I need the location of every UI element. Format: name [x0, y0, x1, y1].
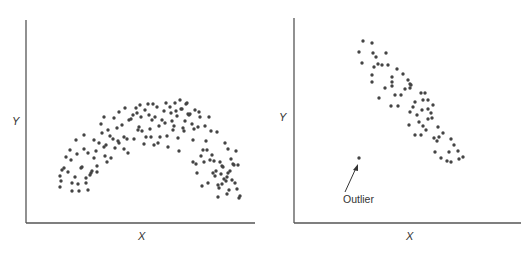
data-point	[103, 154, 106, 157]
data-point	[84, 181, 87, 184]
chart-canvas-left: Y X	[0, 0, 265, 255]
data-point	[457, 157, 460, 160]
data-point	[66, 170, 69, 173]
scatter-chart-curvilinear: Y X	[0, 0, 265, 255]
y-axis-label-left: Y	[12, 115, 20, 127]
data-points-right	[357, 39, 464, 163]
data-point	[371, 51, 374, 54]
data-point	[220, 182, 223, 185]
data-point	[170, 119, 173, 122]
data-point	[389, 104, 392, 107]
data-point	[219, 172, 222, 175]
data-point	[421, 124, 424, 127]
data-point	[426, 107, 429, 110]
data-point	[134, 106, 137, 109]
data-point	[197, 110, 200, 113]
data-point	[139, 115, 142, 118]
data-point	[171, 128, 174, 131]
data-point	[447, 150, 450, 153]
data-point	[142, 142, 145, 145]
data-point	[370, 73, 373, 76]
data-point	[215, 130, 218, 133]
data-point	[70, 181, 73, 184]
data-point	[449, 160, 452, 163]
data-point	[122, 135, 125, 138]
data-point	[452, 143, 455, 146]
data-point	[82, 133, 85, 136]
data-point	[58, 185, 61, 188]
data-point	[58, 174, 61, 177]
data-point	[218, 160, 221, 163]
data-point	[195, 171, 198, 174]
data-point	[230, 178, 233, 181]
data-point	[125, 137, 128, 140]
data-point	[374, 55, 377, 58]
data-point	[214, 169, 217, 172]
outlier-label: Outlier	[343, 193, 374, 205]
data-point	[175, 114, 178, 117]
data-point	[84, 176, 87, 179]
data-point	[206, 181, 209, 184]
data-point	[173, 101, 176, 104]
data-point	[155, 105, 158, 108]
outlier-point	[357, 156, 360, 159]
x-axis-label-right: X	[405, 230, 414, 242]
data-point	[204, 139, 207, 142]
data-point	[177, 149, 180, 152]
data-point	[433, 150, 436, 153]
data-point	[126, 151, 129, 154]
data-point	[163, 121, 166, 124]
data-point	[196, 125, 199, 128]
data-point	[386, 63, 389, 66]
data-point	[208, 158, 211, 161]
data-point	[176, 136, 179, 139]
data-point	[225, 175, 228, 178]
data-point	[191, 160, 194, 163]
data-point	[74, 138, 77, 141]
data-point	[436, 125, 439, 128]
data-point	[117, 110, 120, 113]
data-point	[149, 135, 152, 138]
data-point	[183, 119, 186, 122]
data-point	[80, 165, 83, 168]
data-point	[390, 75, 393, 78]
data-point	[193, 108, 196, 111]
data-point	[150, 118, 153, 121]
data-point	[413, 133, 416, 136]
data-point	[399, 93, 402, 96]
data-point	[439, 156, 442, 159]
data-point	[69, 158, 72, 161]
data-point	[194, 162, 197, 165]
outlier-arrow	[345, 168, 356, 192]
data-point	[461, 155, 464, 158]
chart-canvas-right: Outlier Y X	[265, 0, 530, 255]
data-point	[390, 84, 393, 87]
arrowhead-icon	[353, 164, 358, 171]
data-point	[178, 98, 181, 101]
data-point	[370, 41, 373, 44]
data-point	[226, 171, 229, 174]
data-point	[180, 107, 183, 110]
data-point	[70, 189, 73, 192]
data-point	[97, 141, 100, 144]
data-point	[413, 100, 416, 103]
data-point	[396, 104, 399, 107]
data-point	[174, 109, 177, 112]
data-point	[370, 80, 373, 83]
data-point	[393, 93, 396, 96]
data-point	[227, 188, 230, 191]
data-point	[384, 51, 387, 54]
data-point	[82, 147, 85, 150]
data-point	[198, 115, 201, 118]
data-point	[188, 112, 191, 115]
data-point	[376, 62, 379, 65]
data-point	[135, 111, 138, 114]
data-point	[95, 164, 98, 167]
data-point	[105, 160, 108, 163]
data-point	[216, 183, 219, 186]
data-point	[191, 138, 194, 141]
data-point	[132, 137, 135, 140]
data-point	[102, 115, 105, 118]
data-point	[64, 155, 67, 158]
data-point	[238, 194, 241, 197]
